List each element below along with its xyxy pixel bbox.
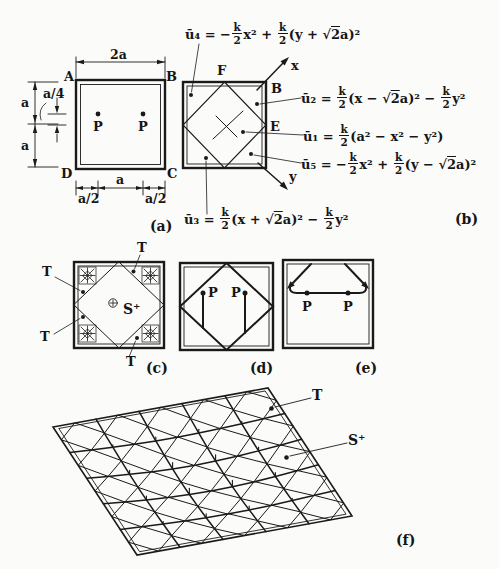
formula-u3: ū₃ = k2(x + √2a)² − k2y² xyxy=(184,207,348,231)
panel-tag-e: (e) xyxy=(355,360,377,377)
dim-left-a-lower: a xyxy=(21,138,29,153)
panel-d-plate-inner xyxy=(184,267,269,346)
panel-f-line xyxy=(87,439,302,478)
panel-f-line xyxy=(155,498,198,522)
panel-c-splus-mark xyxy=(109,299,117,307)
corner-label-C: C xyxy=(167,166,177,182)
panel-b-center-axes-mark xyxy=(213,111,243,139)
panel-f-line xyxy=(172,521,215,543)
panel-e-plate-outer xyxy=(283,260,373,348)
corner-label-B: B xyxy=(166,69,177,85)
panel-a-load-point-2 xyxy=(141,112,146,117)
panel-c-graphics xyxy=(54,255,164,357)
panel-f-line xyxy=(138,472,181,498)
load-label-p1-e: P xyxy=(302,299,312,315)
panel-a-plate-outer xyxy=(76,80,165,169)
panel-f-line xyxy=(215,514,258,536)
load-label-p2-d: P xyxy=(231,285,241,301)
panel-tag-a: (a) xyxy=(150,218,172,235)
figure-canvas: A B D C 2a a a a/4 P P a a/2 a/2 (a) F B… xyxy=(0,0,499,569)
load-label-p1-a: P xyxy=(93,119,103,135)
dim-offset-a4: a/4 xyxy=(43,86,64,101)
t-label-lower-left: T xyxy=(40,329,50,345)
panel-d-graphics xyxy=(180,263,273,350)
x-axis-label: x xyxy=(291,58,299,74)
point-label-F: F xyxy=(217,63,226,79)
panel-e-load-path xyxy=(287,264,369,293)
dim-top-2a: 2a xyxy=(110,47,127,62)
panel-a-dim-offset xyxy=(40,98,66,142)
dim-bottom-a2-left: a/2 xyxy=(78,191,99,206)
panel-f-line xyxy=(250,419,293,445)
panel-d-yield-diamond xyxy=(180,263,273,350)
panel-a-load-point-1 xyxy=(96,112,101,117)
panel-d-load-point-1 xyxy=(201,291,206,296)
t-label-f: T xyxy=(312,387,322,404)
load-label-p2-e: P xyxy=(343,299,353,315)
y-axis-label: y xyxy=(289,169,297,185)
panel-e-load-point-1 xyxy=(305,291,310,296)
dim-bottom-a: a xyxy=(116,172,124,187)
t-label-bottom: T xyxy=(126,354,136,370)
panel-d-plate-outer xyxy=(180,263,273,350)
panel-b-y-axis xyxy=(258,163,288,190)
panel-f-line xyxy=(112,502,155,527)
panel-f-line xyxy=(224,456,267,482)
point-label-E: E xyxy=(270,119,280,135)
panel-f-line xyxy=(207,429,250,457)
dim-bottom-a2-right: a/2 xyxy=(145,191,166,206)
panel-e-load-point-2 xyxy=(346,291,351,296)
t-label-top: T xyxy=(137,240,147,256)
point-label-B: B xyxy=(271,81,282,97)
panel-d-load-point-2 xyxy=(243,291,248,296)
panel-b-graphics xyxy=(183,44,303,214)
formula-u4: ū₄ = −k2x² + k2(y + √2a)² xyxy=(185,22,360,46)
t-label-left: T xyxy=(42,264,52,280)
load-label-p1-d: P xyxy=(208,285,218,301)
panel-f-line xyxy=(53,388,352,555)
panel-f-line xyxy=(198,491,241,514)
panel-f-line xyxy=(121,444,164,472)
panel-f-line xyxy=(59,391,346,551)
panel-f-line xyxy=(78,450,121,476)
formula-u1: ū₁ = k2(a² − x² − y²) xyxy=(303,124,443,148)
formula-u5: ū₅ = −k2x² + k2(y − √2a)² xyxy=(301,152,476,176)
formula-u2: ū₂ = k2(x − √2a)² − k2y² xyxy=(301,86,465,110)
splus-label-f: S⁺ xyxy=(348,432,366,449)
panel-f-deflected-surface xyxy=(53,388,352,555)
panel-f-line xyxy=(181,465,224,491)
dim-left-a-upper: a xyxy=(21,95,29,110)
panel-tag-f: (f) xyxy=(396,532,415,549)
panel-c-corner-ornaments xyxy=(79,267,159,342)
load-label-p2-a: P xyxy=(138,119,148,135)
panel-tag-d: (d) xyxy=(250,360,273,377)
corner-label-D: D xyxy=(61,166,72,182)
panel-f-line xyxy=(70,414,285,453)
panel-f-line xyxy=(241,482,284,506)
panel-f-line xyxy=(258,505,301,527)
panel-e-graphics xyxy=(283,260,373,348)
panel-tag-b: (b) xyxy=(455,211,478,228)
corner-label-A: A xyxy=(64,69,74,85)
panel-f-line xyxy=(95,476,138,502)
panel-tag-c: (c) xyxy=(146,360,168,377)
splus-label-c: S⁺ xyxy=(123,301,141,318)
panel-f-line xyxy=(164,437,207,465)
